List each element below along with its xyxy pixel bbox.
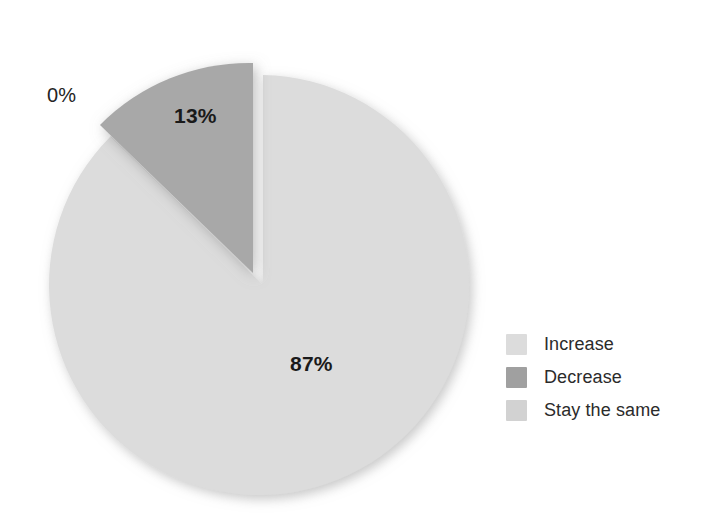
legend-item-increase[interactable]: Increase — [506, 332, 660, 356]
legend-swatch-decrease — [506, 367, 527, 388]
pie-label-decrease: 13% — [174, 104, 217, 128]
legend-label-increase: Increase — [544, 334, 614, 355]
legend-item-decrease[interactable]: Decrease — [506, 365, 660, 389]
legend-label-stay-the-same: Stay the same — [544, 400, 660, 421]
legend-swatch-increase — [506, 334, 527, 355]
legend-swatch-stay-the-same — [506, 400, 527, 421]
pie-chart: 87% 13% 0% Increase Decrease Stay the sa… — [0, 0, 724, 516]
chart-legend: Increase Decrease Stay the same — [506, 332, 660, 422]
legend-item-stay-the-same[interactable]: Stay the same — [506, 398, 660, 422]
pie-chart-canvas — [0, 0, 724, 516]
legend-label-decrease: Decrease — [544, 367, 622, 388]
pie-label-stay-the-same: 0% — [47, 84, 76, 107]
pie-label-increase: 87% — [290, 352, 333, 376]
